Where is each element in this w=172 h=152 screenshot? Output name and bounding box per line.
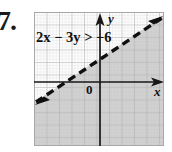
problem-number: 7. bbox=[0, 4, 27, 38]
inequality-text: 2x − 3y > −6 bbox=[36, 29, 112, 45]
inequality-label: 2x − 3y > −6 bbox=[36, 29, 112, 46]
axis-label-x: x bbox=[154, 84, 161, 100]
origin-label: 0 bbox=[86, 82, 93, 98]
worksheet-problem-figure: 7. bbox=[0, 0, 172, 152]
axis-label-y: y bbox=[108, 11, 114, 27]
